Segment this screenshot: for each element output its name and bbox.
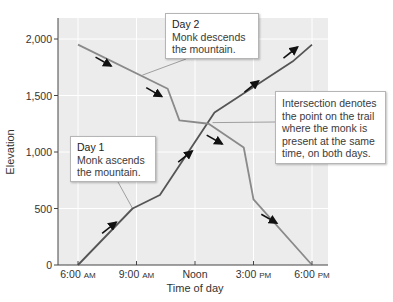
callout-intersection-line3: where the monk is xyxy=(282,122,379,135)
callout-day2: Day 2 Monk descends the mountain. xyxy=(165,13,259,59)
callout-intersection-line5: time, on both days. xyxy=(282,147,379,160)
y-tick-label: 500 xyxy=(34,203,52,215)
callout-intersection-line4: present at the same xyxy=(282,135,379,148)
callout-day2-line1: Monk descends xyxy=(172,31,252,44)
y-tick-label: 1,500 xyxy=(26,90,52,102)
y-axis-ticks: 05001,0001,5002,000 xyxy=(26,33,58,271)
x-tick-label: 6:00PM xyxy=(294,268,330,280)
y-tick-label: 2,000 xyxy=(26,33,52,45)
callout-day1-title: Day 1 xyxy=(77,141,149,154)
callout-intersection-line2: the point on the trail xyxy=(282,110,379,123)
x-axis-title: Time of day xyxy=(166,282,224,294)
y-tick-label: 1,000 xyxy=(26,146,52,158)
callout-day1: Day 1 Monk ascends the mountain. xyxy=(70,136,156,182)
x-tick-label: Noon xyxy=(182,268,207,280)
callout-intersection-line1: Intersection denotes xyxy=(282,97,379,110)
y-tick-label: 0 xyxy=(46,259,52,271)
callout-intersection: Intersection denotes the point on the tr… xyxy=(275,91,386,164)
x-tick-label: 3:00PM xyxy=(236,268,272,280)
x-tick-label: 6:00AM xyxy=(60,268,96,280)
x-tick-label: 9:00AM xyxy=(119,268,155,280)
callout-day2-title: Day 2 xyxy=(172,18,252,31)
callout-day1-line2: the mountain. xyxy=(77,166,149,179)
callout-day2-line2: the mountain. xyxy=(172,43,252,56)
callout-day1-line1: Monk ascends xyxy=(77,154,149,167)
y-axis-title: Elevation xyxy=(4,129,16,174)
